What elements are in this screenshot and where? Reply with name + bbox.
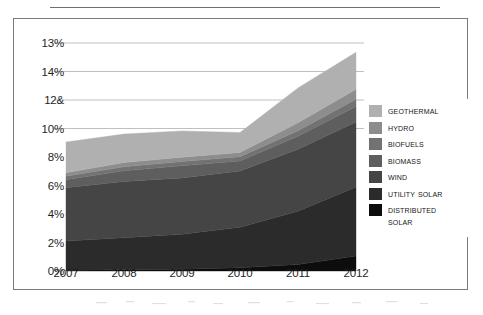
y-tick-label: 10% — [42, 123, 64, 135]
x-tick-label: 2010 — [228, 267, 253, 279]
y-tick-label: 12& — [44, 94, 64, 106]
chart-legend: GeothermalHydroBiofuelsBiomassWindUtilit… — [369, 99, 469, 237]
legend-item[interactable]: Biomass — [369, 155, 469, 168]
y-tick-label: 6% — [48, 180, 64, 192]
legend-item-label: Utility Solar — [388, 188, 442, 200]
legend-item-label: Wind — [388, 171, 407, 183]
y-tick-label: 4% — [48, 208, 64, 220]
chart-figure-frame: 13%14%12&10%8%6%4%2%0% 20072008200920102… — [13, 18, 468, 290]
x-tick-label: 2011 — [286, 267, 310, 279]
legend-item-label: Biomass — [388, 155, 421, 167]
y-axis-tick-labels: 13%14%12&10%8%6%4%2%0% — [22, 19, 64, 291]
y-tick-label: 14% — [42, 66, 64, 78]
legend-swatch-icon — [369, 171, 382, 183]
legend-item[interactable]: Utility Solar — [369, 188, 469, 201]
page-separator-rule — [50, 7, 440, 8]
legend-item-label: Geothermal — [388, 105, 439, 117]
x-tick-label: 2007 — [54, 267, 79, 279]
y-tick-label: 8% — [48, 151, 64, 163]
legend-swatch-icon — [369, 155, 382, 167]
legend-item[interactable]: Distributed Solar — [369, 204, 469, 227]
legend-item-label: Hydro — [388, 122, 414, 134]
y-tick-label: 13% — [42, 37, 64, 49]
legend-item[interactable]: Hydro — [369, 122, 469, 135]
legend-item-label: Biofuels — [388, 138, 424, 150]
x-tick-label: 2012 — [344, 267, 369, 279]
x-tick-label: 2008 — [112, 267, 137, 279]
legend-swatch-icon — [369, 105, 382, 117]
legend-item[interactable]: Wind — [369, 171, 469, 184]
x-axis-tick-labels: 200720082009201020112012 — [14, 267, 469, 285]
legend-swatch-icon — [369, 122, 382, 134]
legend-swatch-icon — [369, 204, 382, 216]
legend-item[interactable]: Geothermal — [369, 105, 469, 118]
legend-swatch-icon — [369, 138, 382, 150]
y-tick-label: 2% — [48, 237, 64, 249]
legend-swatch-icon — [369, 188, 382, 200]
legend-item-label: Distributed Solar — [388, 204, 436, 227]
legend-item[interactable]: Biofuels — [369, 138, 469, 151]
x-tick-label: 2009 — [170, 267, 195, 279]
scan-noise-artifact — [0, 296, 483, 315]
